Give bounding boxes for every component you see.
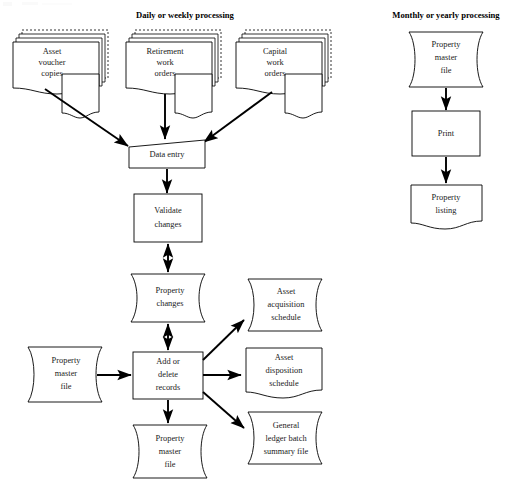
label-print: Print [438,129,455,138]
label-property-master-file-output-line2: master [159,447,182,456]
label-retirement-work-orders-line3: orders [155,69,176,78]
label-asset-voucher-copies-line2: voucher [39,58,66,67]
connector-capital-to-dataentry [204,92,272,142]
label-property-changes-line2: changes [157,299,184,308]
label-property-master-file-monthly-line1: Property [432,40,462,49]
label-asset-voucher-copies-line1: Asset [43,47,62,56]
label-asset-disposition-schedule-line3: schedule [269,379,299,388]
label-data-entry: Data entry [149,150,185,159]
label-asset-voucher-copies-line3: copies [41,69,62,78]
node-property-master-file-output[interactable]: Property master file [133,425,207,478]
flowchart-canvas: Daily or weekly processing Monthly or ye… [0,0,513,485]
label-property-master-file-input-line1: Property [52,356,82,365]
connector-add-delete-to-general-ledger [203,392,244,428]
label-property-changes-line1: Property [156,286,186,295]
label-property-listing-line1: Property [432,193,462,202]
node-asset-disposition-schedule[interactable]: Asset disposition schedule [246,348,322,398]
label-retirement-work-orders-line1: Retirement [146,47,184,56]
label-property-master-file-monthly-line2: master [435,53,458,62]
label-add-or-delete-records-line2: delete [158,370,178,379]
label-capital-work-orders-line2: work [266,58,284,67]
label-asset-acquisition-schedule-line1: Asset [277,287,296,296]
node-general-ledger-batch-summary-file[interactable]: General ledger batch summary file [248,412,322,464]
node-data-entry[interactable]: Data entry [129,140,205,168]
section-title-monthly: Monthly or yearly processing [392,10,500,20]
node-print[interactable]: Print [412,111,480,156]
label-add-or-delete-records-line1: Add or [156,357,180,366]
node-property-changes[interactable]: Property changes [131,274,205,322]
label-property-master-file-input-line2: master [55,369,78,378]
label-general-ledger-line1: General [273,421,300,430]
node-asset-voucher-copies[interactable]: Asset voucher copies [13,30,108,118]
connector-add-delete-to-acquisition [203,320,244,360]
label-asset-disposition-schedule-line1: Asset [275,353,294,362]
node-property-master-file-monthly[interactable]: Property master file [409,32,483,87]
flowchart-svg: Daily or weekly processing Monthly or ye… [0,0,513,485]
label-capital-work-orders-line3: orders [265,69,286,78]
node-add-or-delete-records[interactable]: Add or delete records [133,352,203,399]
label-general-ledger-line2: ledger batch [265,434,307,443]
label-asset-disposition-schedule-line2: disposition [266,366,304,375]
node-capital-work-orders[interactable]: Capital work orders [236,30,331,118]
label-property-master-file-output-line3: file [164,460,175,469]
label-general-ledger-line3: summary file [264,447,309,456]
node-retirement-work-orders[interactable]: Retirement work orders [126,30,221,118]
node-validate-changes[interactable]: Validate changes [134,194,202,242]
label-asset-acquisition-schedule-line2: acquisition [268,300,306,309]
label-retirement-work-orders-line2: work [156,58,174,67]
label-property-listing-line2: listing [436,206,458,215]
label-asset-acquisition-schedule-line3: schedule [271,313,301,322]
node-asset-acquisition-schedule[interactable]: Asset acquisition schedule [248,279,322,331]
label-validate-changes-line1: Validate [154,206,182,215]
label-property-master-file-monthly-line3: file [440,66,451,75]
label-property-master-file-output-line1: Property [156,434,186,443]
label-validate-changes-line2: changes [155,220,182,229]
label-capital-work-orders-line1: Capital [263,47,288,56]
section-title-daily: Daily or weekly processing [136,10,234,20]
node-property-master-file-input[interactable]: Property master file [28,347,102,402]
node-property-listing[interactable]: Property listing [411,185,482,229]
label-property-master-file-input-line3: file [60,382,71,391]
scan-artifact [3,2,72,6]
label-add-or-delete-records-line3: records [156,383,181,392]
